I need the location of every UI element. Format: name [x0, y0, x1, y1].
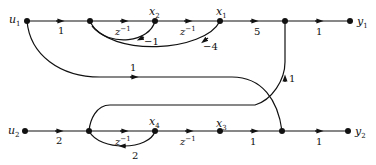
gain-x4-feedback: 2 — [132, 151, 138, 161]
node-y1-label: y1 — [357, 16, 368, 30]
gain-x4-x3: z−1 — [180, 136, 196, 147]
gain-u2-n4: 2 — [56, 136, 62, 146]
gain-x3-n5: 1 — [250, 137, 256, 147]
gain-n3-y1: 1 — [316, 27, 322, 37]
gain-x2-x1: z−1 — [180, 26, 196, 37]
gain-x1-n3: 5 — [254, 27, 260, 37]
node-x3-label: x3 — [216, 118, 227, 132]
gain-n4-x4: z−1 — [115, 136, 131, 147]
gain-n1-x2: z−1 — [115, 26, 131, 37]
node-x4-label: x4 — [149, 116, 160, 130]
gain-n5-y2: 1 — [316, 137, 322, 147]
node-u2-label: u2 — [8, 125, 20, 139]
node-x1-label: x1 — [216, 6, 227, 20]
gain-x1-feedback: −4 — [203, 42, 218, 52]
gain-u1-n1: 1 — [58, 26, 64, 36]
signal-flow-graph: u1 x2 x1 y1 u2 x4 x3 y2 1 z−1 z−1 −1 −4 … — [0, 0, 376, 165]
node-y2-label: y2 — [355, 126, 366, 140]
gain-u1-cross: 1 — [130, 63, 136, 73]
gain-x2-feedback: −1 — [144, 37, 159, 47]
node-u1-label: u1 — [9, 14, 21, 28]
gain-n5-n3: 1 — [289, 74, 295, 84]
node-x2-label: x2 — [149, 6, 160, 20]
